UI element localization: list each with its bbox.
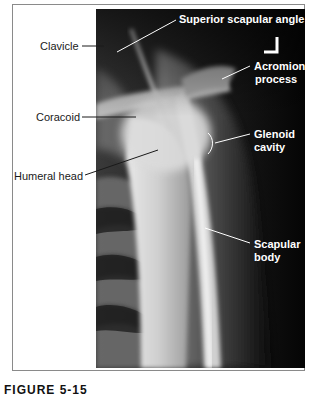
- label-glenoid-line2: cavity: [254, 141, 295, 154]
- label-glenoid-line1: Glenoid: [254, 128, 295, 141]
- label-scapular-line2: body: [254, 251, 300, 264]
- label-scapular-body: Scapular body: [254, 238, 300, 264]
- label-acromion-line2: process: [254, 73, 305, 86]
- label-humeral-head: Humeral head: [14, 170, 83, 183]
- label-acromion-process: Acromion process: [254, 60, 305, 86]
- label-scapular-line1: Scapular: [254, 238, 300, 251]
- label-acromion-line1: Acromion: [254, 60, 305, 73]
- label-glenoid-cavity: Glenoid cavity: [254, 128, 295, 154]
- figure-caption: FIGURE 5-15: [4, 383, 88, 397]
- label-superior-scapular-angle: Superior scapular angle: [179, 13, 304, 26]
- label-coracoid: Coracoid: [36, 111, 80, 124]
- label-clavicle: Clavicle: [40, 40, 79, 53]
